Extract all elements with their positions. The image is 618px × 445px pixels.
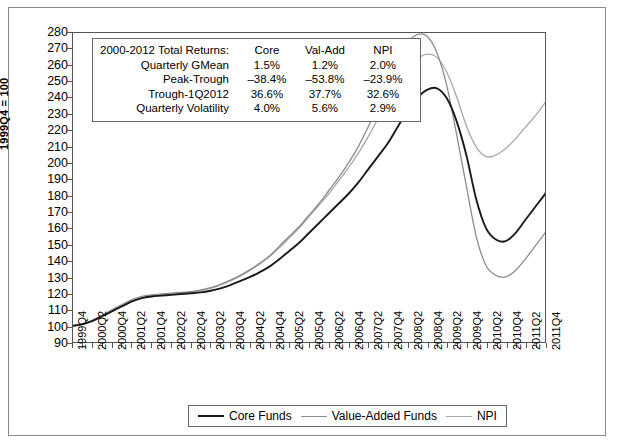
- x-tick-label: 2011Q4: [550, 312, 562, 350]
- stats-value: Val-Add: [296, 43, 354, 58]
- x-tick-label: 2010Q2: [491, 311, 503, 350]
- x-tick-mark: [210, 343, 211, 348]
- x-tick-mark: [507, 343, 508, 348]
- legend-line-icon: [446, 416, 472, 417]
- x-tick-mark: [349, 343, 350, 348]
- x-tick-mark: [92, 343, 93, 348]
- stats-value: 2.0%: [354, 58, 412, 73]
- legend-line-icon: [301, 416, 327, 417]
- x-tick-label: 2005Q4: [313, 311, 325, 350]
- stats-value: 5.6%: [296, 101, 354, 116]
- x-tick-mark: [526, 343, 527, 348]
- stats-value: 1.2%: [296, 58, 354, 73]
- y-tick-label: 150: [47, 238, 68, 252]
- stats-value: –53.8%: [296, 72, 354, 87]
- figure: 1999Q4 = 100 280270260250240230220210200…: [0, 0, 618, 445]
- y-tick-label: 270: [47, 41, 68, 55]
- legend-entry: Core Funds: [198, 409, 292, 423]
- x-tick-mark: [230, 343, 231, 348]
- y-tick-label: 210: [47, 140, 68, 154]
- stats-row-label: Peak-Trough: [99, 72, 238, 87]
- y-tick-label: 220: [47, 123, 68, 137]
- stats-row: Peak-Trough–38.4%–53.8%–23.9%: [99, 72, 412, 87]
- stats-row-label: Quarterly Volatility: [99, 101, 238, 116]
- y-tick-label: 190: [47, 172, 68, 186]
- x-tick-label: 2002Q4: [195, 311, 207, 350]
- stats-value: 2.9%: [354, 101, 412, 116]
- x-tick-mark: [112, 343, 113, 348]
- y-tick-label: 200: [47, 156, 68, 170]
- y-tick-label: 110: [48, 303, 68, 317]
- x-tick-mark: [408, 343, 409, 348]
- x-tick-label: 2008Q4: [432, 311, 444, 350]
- x-tick-label: 2000Q2: [96, 311, 108, 350]
- x-axis-labels: 1999Q42000Q22000Q42001Q22001Q42002Q22002…: [72, 350, 546, 406]
- x-tick-mark: [447, 343, 448, 348]
- x-tick-label: 2009Q4: [471, 311, 483, 350]
- x-tick-mark: [388, 343, 389, 348]
- x-tick-label: 2003Q2: [214, 311, 226, 350]
- x-tick-label: 2007Q2: [372, 311, 384, 350]
- y-tick-label: 160: [47, 221, 68, 235]
- stats-header-row: 2000-2012 Total Returns:CoreVal-AddNPI: [99, 43, 412, 58]
- y-tick-label: 130: [47, 271, 68, 285]
- stats-row: Quarterly Volatility4.0%5.6%2.9%: [99, 101, 412, 116]
- x-tick-label: 2001Q4: [155, 311, 167, 350]
- x-tick-mark: [309, 343, 310, 348]
- x-tick-label: 2002Q2: [175, 311, 187, 350]
- stats-row-label: Trough-1Q2012: [99, 87, 238, 102]
- y-tick-label: 140: [47, 254, 68, 268]
- x-tick-label: 2009Q2: [451, 311, 463, 350]
- legend-label: Core Funds: [229, 409, 292, 423]
- legend-label: Value-Added Funds: [332, 409, 437, 423]
- stats-value: 36.6%: [238, 87, 296, 102]
- y-tick-label: 90: [54, 336, 68, 350]
- x-tick-label: 2001Q2: [135, 311, 147, 350]
- x-tick-mark: [72, 343, 73, 348]
- y-tick-label: 180: [47, 189, 68, 203]
- x-tick-mark: [428, 343, 429, 348]
- x-tick-mark: [329, 343, 330, 348]
- statistics-table: 2000-2012 Total Returns:CoreVal-AddNPIQu…: [92, 38, 421, 122]
- x-tick-mark: [131, 343, 132, 348]
- x-tick-label: 2004Q2: [254, 311, 266, 350]
- legend-entry: NPI: [446, 409, 497, 423]
- x-tick-label: 2007Q4: [392, 311, 404, 350]
- x-tick-mark: [368, 343, 369, 348]
- y-tick-label: 120: [47, 287, 68, 301]
- x-tick-label: 2010Q4: [511, 311, 523, 350]
- chart-legend: Core FundsValue-Added FundsNPI: [188, 405, 507, 427]
- stats-value: 1.5%: [238, 58, 296, 73]
- stats-row-label: Quarterly GMean: [99, 58, 238, 73]
- stats-row-label: 2000-2012 Total Returns:: [99, 43, 238, 58]
- y-tick-label: 280: [47, 25, 68, 39]
- y-tick-label: 230: [47, 107, 68, 121]
- stats-value: Core: [238, 43, 296, 58]
- x-tick-label: 2004Q4: [274, 311, 286, 350]
- x-tick-label: 2011Q2: [530, 312, 542, 350]
- x-tick-mark: [289, 343, 290, 348]
- x-tick-label: 2008Q2: [412, 311, 424, 350]
- x-tick-label: 2000Q4: [116, 311, 128, 350]
- x-tick-mark: [171, 343, 172, 348]
- stats-value: –38.4%: [238, 72, 296, 87]
- stats-row: Trough-1Q201236.6%37.7%32.6%: [99, 87, 412, 102]
- y-tick-label: 170: [47, 205, 68, 219]
- x-tick-mark: [467, 343, 468, 348]
- y-tick-label: 240: [47, 90, 68, 104]
- stats-row: Quarterly GMean1.5%1.2%2.0%: [99, 58, 412, 73]
- x-tick-label: 2005Q2: [293, 311, 305, 350]
- x-tick-mark: [151, 343, 152, 348]
- stats-value: 4.0%: [238, 101, 296, 116]
- x-tick-label: 2006Q2: [333, 311, 345, 350]
- legend-entry: Value-Added Funds: [301, 409, 437, 423]
- y-tick-label: 100: [47, 320, 68, 334]
- stats-value: 32.6%: [354, 87, 412, 102]
- x-tick-label: 2003Q4: [234, 311, 246, 350]
- legend-label: NPI: [477, 409, 497, 423]
- x-tick-mark: [546, 343, 547, 348]
- stats-value: –23.9%: [354, 72, 412, 87]
- stats-value: 37.7%: [296, 87, 354, 102]
- stats-value: NPI: [354, 43, 412, 58]
- x-tick-label: 1999Q4: [76, 311, 88, 350]
